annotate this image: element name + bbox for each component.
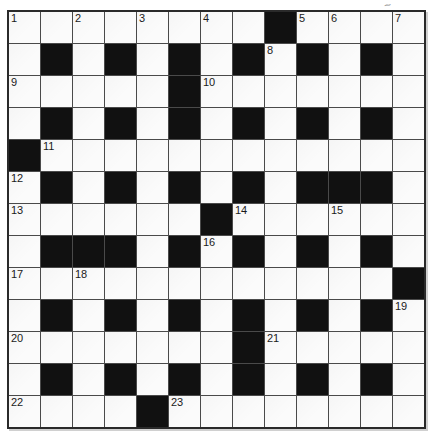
white-cell[interactable]: 1: [9, 12, 40, 43]
white-cell[interactable]: [137, 236, 168, 267]
white-cell[interactable]: [137, 300, 168, 331]
white-cell[interactable]: [41, 396, 72, 427]
white-cell[interactable]: [201, 300, 232, 331]
white-cell[interactable]: [393, 332, 424, 363]
white-cell[interactable]: [297, 204, 328, 235]
white-cell[interactable]: [265, 396, 296, 427]
white-cell[interactable]: [265, 364, 296, 395]
white-cell[interactable]: [169, 12, 200, 43]
white-cell[interactable]: [9, 364, 40, 395]
white-cell[interactable]: [393, 76, 424, 107]
white-cell[interactable]: [265, 108, 296, 139]
white-cell[interactable]: [297, 268, 328, 299]
white-cell[interactable]: [329, 364, 360, 395]
white-cell[interactable]: [201, 364, 232, 395]
white-cell[interactable]: 15: [329, 204, 360, 235]
white-cell[interactable]: 17: [9, 268, 40, 299]
white-cell[interactable]: [105, 396, 136, 427]
white-cell[interactable]: [137, 364, 168, 395]
white-cell[interactable]: 22: [9, 396, 40, 427]
white-cell[interactable]: [361, 76, 392, 107]
white-cell[interactable]: 5: [297, 12, 328, 43]
white-cell[interactable]: 9: [9, 76, 40, 107]
white-cell[interactable]: 4: [201, 12, 232, 43]
white-cell[interactable]: [361, 140, 392, 171]
white-cell[interactable]: [137, 76, 168, 107]
white-cell[interactable]: [73, 76, 104, 107]
white-cell[interactable]: [393, 108, 424, 139]
white-cell[interactable]: [73, 44, 104, 75]
white-cell[interactable]: [169, 268, 200, 299]
white-cell[interactable]: [233, 76, 264, 107]
white-cell[interactable]: [233, 140, 264, 171]
white-cell[interactable]: [393, 44, 424, 75]
white-cell[interactable]: [41, 12, 72, 43]
white-cell[interactable]: [393, 140, 424, 171]
white-cell[interactable]: 19: [393, 300, 424, 331]
white-cell[interactable]: [105, 268, 136, 299]
white-cell[interactable]: [73, 140, 104, 171]
white-cell[interactable]: [265, 172, 296, 203]
white-cell[interactable]: [361, 204, 392, 235]
white-cell[interactable]: [329, 332, 360, 363]
white-cell[interactable]: [9, 108, 40, 139]
white-cell[interactable]: [201, 332, 232, 363]
white-cell[interactable]: 8: [265, 44, 296, 75]
white-cell[interactable]: [361, 268, 392, 299]
white-cell[interactable]: [137, 332, 168, 363]
white-cell[interactable]: [329, 44, 360, 75]
white-cell[interactable]: [329, 396, 360, 427]
white-cell[interactable]: [41, 268, 72, 299]
white-cell[interactable]: [73, 300, 104, 331]
white-cell[interactable]: [233, 12, 264, 43]
white-cell[interactable]: [297, 396, 328, 427]
white-cell[interactable]: 13: [9, 204, 40, 235]
white-cell[interactable]: [105, 332, 136, 363]
white-cell[interactable]: [169, 140, 200, 171]
white-cell[interactable]: [329, 236, 360, 267]
white-cell[interactable]: 18: [73, 268, 104, 299]
white-cell[interactable]: [105, 76, 136, 107]
white-cell[interactable]: [297, 332, 328, 363]
white-cell[interactable]: [265, 236, 296, 267]
white-cell[interactable]: 2: [73, 12, 104, 43]
white-cell[interactable]: [9, 44, 40, 75]
white-cell[interactable]: [201, 268, 232, 299]
white-cell[interactable]: [329, 76, 360, 107]
white-cell[interactable]: [137, 204, 168, 235]
white-cell[interactable]: [201, 172, 232, 203]
white-cell[interactable]: [169, 332, 200, 363]
white-cell[interactable]: [41, 332, 72, 363]
white-cell[interactable]: [41, 204, 72, 235]
white-cell[interactable]: [329, 140, 360, 171]
white-cell[interactable]: 20: [9, 332, 40, 363]
white-cell[interactable]: [9, 236, 40, 267]
white-cell[interactable]: 16: [201, 236, 232, 267]
white-cell[interactable]: [361, 12, 392, 43]
white-cell[interactable]: 3: [137, 12, 168, 43]
white-cell[interactable]: [265, 76, 296, 107]
white-cell[interactable]: [297, 140, 328, 171]
white-cell[interactable]: [329, 300, 360, 331]
white-cell[interactable]: [137, 172, 168, 203]
white-cell[interactable]: [233, 268, 264, 299]
white-cell[interactable]: 6: [329, 12, 360, 43]
white-cell[interactable]: [361, 332, 392, 363]
white-cell[interactable]: [41, 76, 72, 107]
white-cell[interactable]: [265, 204, 296, 235]
white-cell[interactable]: [137, 268, 168, 299]
white-cell[interactable]: [201, 108, 232, 139]
white-cell[interactable]: [329, 268, 360, 299]
white-cell[interactable]: [201, 44, 232, 75]
white-cell[interactable]: [297, 76, 328, 107]
white-cell[interactable]: 14: [233, 204, 264, 235]
white-cell[interactable]: [137, 44, 168, 75]
white-cell[interactable]: [105, 140, 136, 171]
white-cell[interactable]: [265, 268, 296, 299]
white-cell[interactable]: [73, 172, 104, 203]
white-cell[interactable]: 23: [169, 396, 200, 427]
white-cell[interactable]: [201, 396, 232, 427]
white-cell[interactable]: [169, 204, 200, 235]
white-cell[interactable]: [73, 332, 104, 363]
white-cell[interactable]: [201, 140, 232, 171]
